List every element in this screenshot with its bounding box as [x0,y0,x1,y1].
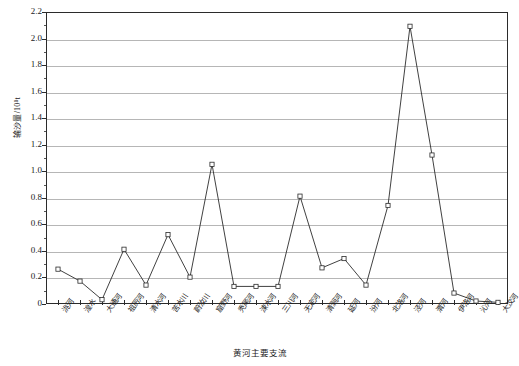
y-axis-tick-mark [42,251,46,252]
y-axis-minor-tick-mark [44,185,46,186]
y-axis-tick-mark [42,12,46,13]
y-axis-tick-label: 2.0 [2,34,42,43]
y-axis-tick-mark [42,145,46,146]
y-axis-tick-mark [42,39,46,40]
data-point-marker [188,275,192,279]
data-point-marker [210,162,214,166]
y-axis-tick-label: 1.4 [2,113,42,122]
data-point-marker [78,279,82,283]
y-axis-tick-label: 0.4 [2,246,42,255]
data-point-marker [56,267,60,271]
y-axis-tick-label: 1.8 [2,60,42,69]
y-axis-tick-mark [42,171,46,172]
y-axis-tick-mark [42,304,46,305]
y-axis-minor-tick-mark [44,78,46,79]
data-series [47,13,509,305]
data-point-marker [276,284,280,288]
data-point-marker [320,266,324,270]
y-axis-minor-tick-mark [44,264,46,265]
data-point-marker [254,284,258,288]
y-axis-tick-label: 2.2 [2,7,42,16]
data-point-marker [430,153,434,157]
data-point-marker [408,24,412,28]
y-axis-minor-tick-mark [44,105,46,106]
y-axis-tick-label: 1.2 [2,140,42,149]
y-axis-tick-mark [42,277,46,278]
data-point-marker [100,298,104,302]
y-axis-tick-mark [42,224,46,225]
y-axis-minor-tick-mark [44,238,46,239]
data-point-marker [342,256,346,260]
y-axis-minor-tick-mark [44,211,46,212]
y-axis-tick-mark [42,65,46,66]
data-point-marker [496,300,500,304]
y-axis-tick-label: 0 [2,299,42,308]
data-point-marker [364,283,368,287]
x-axis-title: 黄河主要支流 [0,346,519,358]
y-axis-tick-mark [42,118,46,119]
y-axis-minor-tick-mark [44,131,46,132]
y-axis-tick-mark [42,92,46,93]
y-axis-tick-label: 0.6 [2,219,42,228]
series-line [58,26,498,302]
y-axis-minor-tick-mark [44,52,46,53]
data-point-marker [122,247,126,251]
data-point-marker [298,194,302,198]
data-point-marker [452,291,456,295]
sediment-load-line-chart: 输沙量/10⁸t 00.20.40.60.81.01.21.41.61.82.0… [0,0,519,366]
y-axis-tick-label: 0.8 [2,193,42,202]
data-point-marker [474,299,478,303]
y-axis-tick-mark [42,198,46,199]
y-axis-tick-label: 1.6 [2,87,42,96]
data-point-marker [166,233,170,237]
plot-area [46,12,508,304]
y-axis-tick-label: 0.2 [2,272,42,281]
data-point-marker [144,283,148,287]
data-point-marker [386,203,390,207]
y-axis-minor-tick-mark [44,291,46,292]
y-axis-minor-tick-mark [44,158,46,159]
data-point-marker [232,284,236,288]
y-axis-minor-tick-mark [44,25,46,26]
y-axis-tick-label: 1.0 [2,166,42,175]
